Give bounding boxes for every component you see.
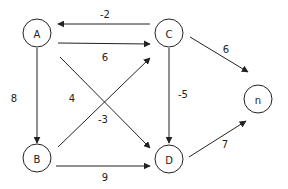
edge-a-to-b: 8	[11, 48, 37, 143]
node-n-label: n	[255, 95, 261, 106]
edge-d-to-n: 7	[189, 121, 246, 157]
node-a-label: A	[34, 29, 41, 40]
node-c: C	[155, 19, 183, 47]
node-n: n	[244, 85, 272, 113]
edge-weight-c-n: 6	[223, 44, 229, 55]
node-a: A	[23, 19, 51, 47]
node-d: D	[155, 145, 183, 173]
edge-c-to-d: -5	[169, 48, 188, 143]
graph-canvas: -2 6 8 4 -3 -5 6 7 9 A C n	[0, 0, 288, 189]
edge-a-to-c: 6	[58, 43, 150, 63]
edge-weight-b-d: 9	[102, 172, 108, 183]
edge-weight-a-b: 8	[11, 93, 17, 104]
node-b: B	[23, 144, 51, 172]
edge-b-to-d: 9	[56, 166, 150, 183]
node-d-label: D	[165, 155, 173, 166]
edge-weight-a-d: -3	[98, 114, 108, 125]
edge-weight-d-n: 7	[222, 139, 228, 150]
node-c-label: C	[166, 29, 173, 40]
edge-weight-b-c: 4	[69, 93, 75, 104]
edge-c-to-a: -2	[58, 9, 150, 25]
edge-weight-a-c: 6	[102, 52, 108, 63]
node-b-label: B	[34, 154, 41, 165]
edge-weight-c-a: -2	[100, 9, 110, 20]
edge-weight-c-d: -5	[178, 89, 188, 100]
edge-c-to-n: 6	[190, 37, 248, 72]
